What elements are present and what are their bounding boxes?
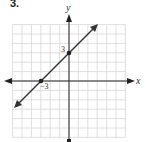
- y-intercept-label: 3: [61, 45, 65, 54]
- x-axis-right-arrow-icon: [127, 78, 135, 84]
- y-intercept-point: [67, 51, 72, 56]
- coordinate-plane: x y 3 −3: [0, 0, 146, 142]
- y-axis: [66, 14, 72, 142]
- y-axis-label: y: [65, 2, 71, 13]
- y-axis-down-arrow-icon: [67, 139, 71, 142]
- x-axis-label: x: [135, 75, 141, 86]
- x-intercept-label: −3: [40, 82, 49, 91]
- y-axis-up-arrow-icon: [66, 14, 72, 22]
- graph-line: [14, 24, 98, 108]
- x-axis-left-arrow-icon: [4, 78, 12, 84]
